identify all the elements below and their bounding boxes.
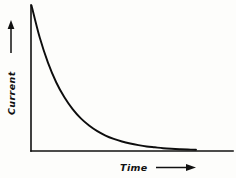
current-axis-label: Current (6, 71, 17, 115)
figure-canvas: Current Time (0, 0, 236, 178)
current-axis-arrow (8, 20, 15, 53)
time-axis-label: Time (120, 162, 148, 173)
exponential-decay-chart: Current Time (0, 0, 236, 178)
decay-curve-path (32, 6, 197, 150)
time-axis-arrow (156, 164, 196, 171)
